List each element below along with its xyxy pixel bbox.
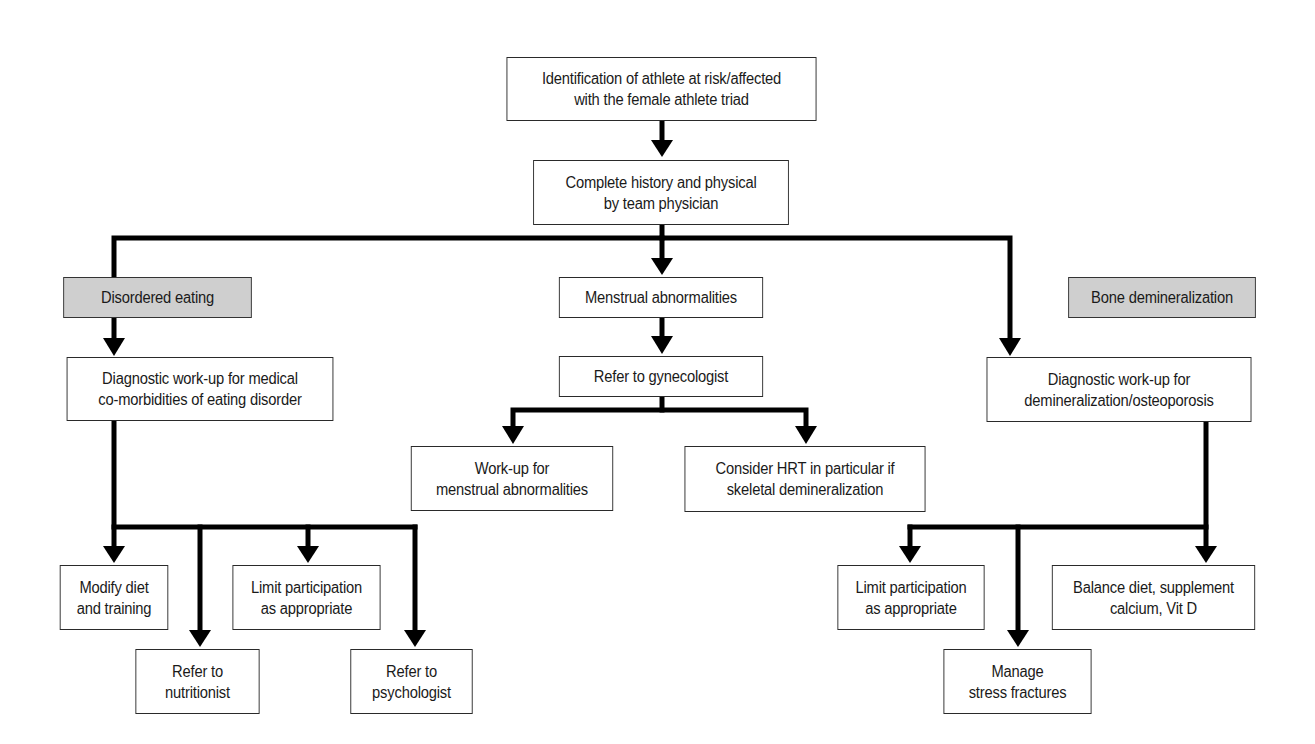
node-label: Refer to nutritionist [165, 661, 230, 703]
node-consider-hrt: Consider HRT in particular if skeletal d… [684, 446, 925, 512]
node-modify-diet: Modify diet and training [60, 565, 169, 630]
node-menstrual-abnormalities: Menstrual abnormalities [559, 277, 763, 318]
node-label: Menstrual abnormalities [585, 287, 737, 308]
node-limit-participation-left: Limit participation as appropriate [232, 565, 380, 630]
node-refer-nutritionist: Refer to nutritionist [135, 649, 259, 714]
node-label: Limit participation as appropriate [251, 577, 362, 619]
node-diagnostic-bone: Diagnostic work-up for demineralization/… [987, 357, 1252, 422]
node-refer-psychologist: Refer to psychologist [350, 649, 472, 714]
node-balance-diet: Balance diet, supplement calcium, Vit D [1052, 565, 1255, 630]
node-identification: Identification of athlete at risk/affect… [506, 57, 816, 121]
node-label: Diagnostic work-up for medical co-morbid… [98, 368, 301, 410]
node-diagnostic-eating: Diagnostic work-up for medical co-morbid… [67, 357, 334, 421]
node-label: Diagnostic work-up for demineralization/… [1024, 369, 1213, 411]
node-refer-gynecologist: Refer to gynecologist [559, 356, 763, 397]
node-label: Modify diet and training [77, 577, 152, 619]
node-label: Manage stress fractures [969, 661, 1067, 703]
node-label: Refer to psychologist [372, 661, 451, 703]
node-label: Refer to gynecologist [594, 366, 728, 387]
node-label: Consider HRT in particular if skeletal d… [715, 458, 894, 500]
node-label: Work-up for menstrual abnormalities [436, 458, 588, 500]
category-disordered-eating: Disordered eating [63, 277, 252, 318]
category-bone-demineralization: Bone demineralization [1068, 277, 1256, 318]
node-manage-stress-fractures: Manage stress fractures [943, 649, 1091, 714]
node-label: Balance diet, supplement calcium, Vit D [1073, 577, 1234, 619]
node-label: Complete history and physical by team ph… [565, 172, 756, 214]
node-limit-participation-right: Limit participation as appropriate [837, 565, 984, 630]
node-history-physical: Complete history and physical by team ph… [533, 160, 789, 225]
category-label: Bone demineralization [1091, 287, 1233, 308]
node-label: Limit participation as appropriate [855, 577, 966, 619]
node-label: Identification of athlete at risk/affect… [542, 68, 781, 110]
category-label: Disordered eating [101, 287, 214, 308]
flowchart-canvas: Identification of athlete at risk/affect… [0, 0, 1315, 744]
node-workup-menstrual: Work-up for menstrual abnormalities [411, 446, 613, 511]
